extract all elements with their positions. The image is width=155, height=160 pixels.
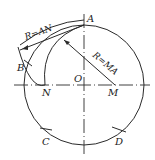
tick-mark-B	[24, 60, 32, 66]
annotation-R-AN: R=AN	[22, 22, 54, 42]
label-N: N	[41, 87, 52, 98]
tick-mark-C	[40, 128, 52, 130]
annotation-R-MA: R=MA	[90, 49, 121, 77]
pentagon-construction-diagram: A B N O M C D R=AN R=MA	[0, 0, 155, 160]
label-A: A	[86, 13, 94, 24]
label-O: O	[74, 73, 82, 84]
label-M: M	[107, 87, 119, 98]
label-C: C	[42, 136, 50, 147]
label-B: B	[16, 62, 24, 73]
label-D: D	[114, 136, 123, 147]
